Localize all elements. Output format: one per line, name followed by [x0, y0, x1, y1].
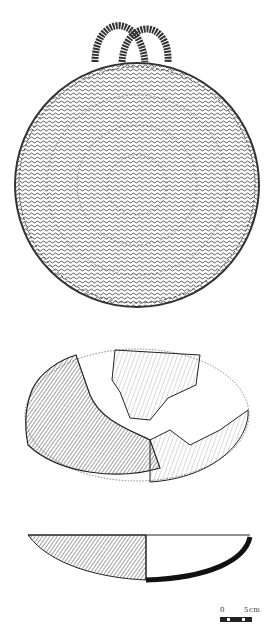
scale-zero-label: 0 — [220, 606, 224, 614]
scale-unit-label: 5cm — [244, 606, 261, 614]
archaeological-drawing — [0, 0, 275, 633]
basket-lid — [15, 63, 259, 307]
scale-bar-graphic — [220, 617, 252, 622]
bowl-plan-view — [25, 349, 249, 482]
scale-bar: 0 5cm — [220, 606, 268, 626]
basket-handles — [95, 26, 168, 62]
bowl-section — [28, 535, 250, 580]
